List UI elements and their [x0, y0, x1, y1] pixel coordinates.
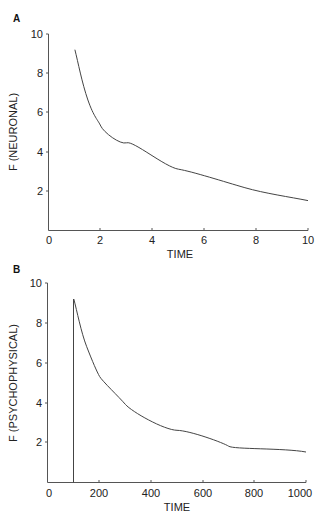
panel-a-label: A — [13, 13, 20, 24]
panel-b-xtick: 600 — [194, 487, 212, 499]
panel-a-xtick: 8 — [253, 234, 259, 246]
panel-a-xtick: 0 — [46, 234, 52, 246]
panel-b-xtick: 0 — [46, 487, 52, 499]
panel-a-xlabel: TIME — [167, 248, 193, 260]
panel-b-ylabel: F (PSYCHOPHYSICAL) — [7, 324, 19, 442]
panel-a-ytick: 8 — [37, 67, 43, 79]
panel-a-xtick: 4 — [149, 234, 155, 246]
panel-b-ytick: 4 — [36, 397, 42, 409]
panel-a-ylabel: F (NEURONAL) — [7, 93, 19, 171]
panel-b: B 10 8 6 4 2 0 200 400 600 800 1000 — [7, 264, 312, 513]
panel-b-ytick: 6 — [36, 357, 42, 369]
panel-b-ytick: 2 — [36, 436, 42, 448]
panel-b-xtick: 1000 — [288, 487, 312, 499]
panel-b-xtick: 200 — [90, 487, 108, 499]
panel-b-label: B — [13, 264, 20, 275]
panel-b-axes — [48, 283, 307, 483]
panel-a-ytick: 2 — [37, 185, 43, 197]
panel-a: A 10 8 6 4 2 0 2 4 6 8 10 — [7, 13, 314, 260]
panel-a-y-ticks: 10 8 6 4 2 — [31, 28, 49, 197]
panel-a-axes — [49, 34, 309, 231]
panel-a-xtick: 2 — [97, 234, 103, 246]
panel-a-curve — [75, 50, 308, 201]
panel-b-ytick: 8 — [36, 317, 42, 329]
figure-caption — [0, 514, 330, 524]
panel-a-xtick: 10 — [302, 234, 314, 246]
panel-b-curve — [74, 299, 306, 452]
panel-a-xtick: 6 — [201, 234, 207, 246]
panel-a-ytick: 4 — [37, 146, 43, 158]
panel-b-xlabel: TIME — [164, 501, 190, 513]
panel-a-ytick: 6 — [37, 106, 43, 118]
panel-b-xtick: 400 — [142, 487, 160, 499]
panel-b-xtick: 800 — [245, 487, 263, 499]
panel-b-ytick: 10 — [30, 277, 42, 289]
panel-a-ytick: 10 — [31, 28, 43, 40]
panel-b-y-ticks: 10 8 6 4 2 — [30, 277, 48, 448]
figure: A 10 8 6 4 2 0 2 4 6 8 10 — [0, 0, 330, 524]
